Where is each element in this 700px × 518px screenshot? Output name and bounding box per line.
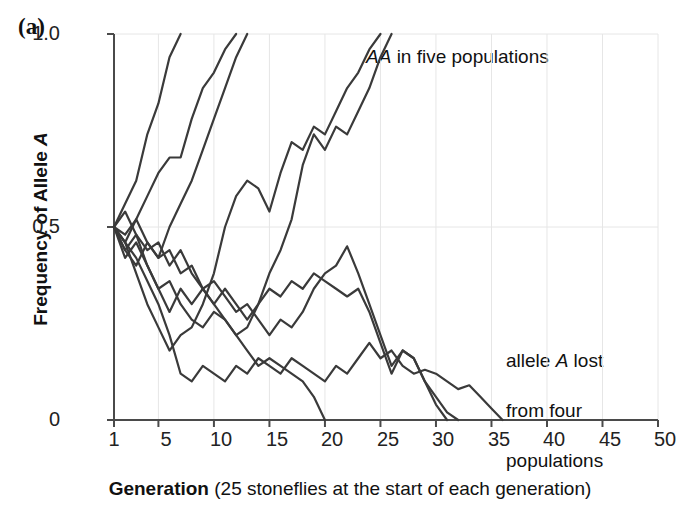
- gridlines: [114, 34, 658, 420]
- figure-panel-a: (a) Frequency of Allele A 1.0 0.5 0 1 5 …: [0, 0, 700, 518]
- series-line-population-8-lost: [114, 219, 458, 420]
- tick-marks: [107, 34, 658, 427]
- plot-svg: [0, 0, 700, 518]
- series-line-population-5-fixed: [114, 34, 380, 351]
- series-line-population-2-fixed: [114, 34, 236, 242]
